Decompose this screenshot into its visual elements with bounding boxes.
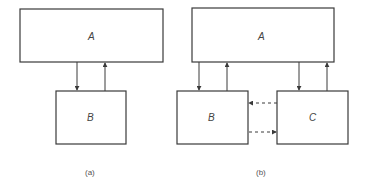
panel-b: A B C (b)	[177, 8, 348, 177]
diagram-canvas: A B (a) A B C (b)	[0, 0, 369, 180]
box-b-label: B	[87, 112, 94, 123]
box-a-label: A	[87, 31, 95, 42]
caption-a: (a)	[85, 168, 95, 177]
caption-b: (b)	[256, 168, 266, 177]
box-c-label: C	[309, 112, 317, 123]
panel-a: A B (a)	[20, 9, 163, 177]
box-b-label: B	[208, 112, 215, 123]
box-a-label: A	[257, 31, 265, 42]
